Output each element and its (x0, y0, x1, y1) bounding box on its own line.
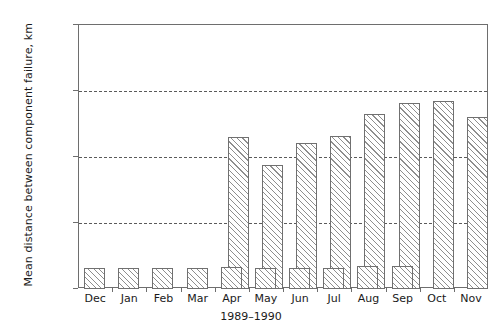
gridline-16000 (79, 157, 487, 158)
bar-short-mar (187, 268, 208, 289)
x-tick-label-nov: Nov (446, 292, 496, 305)
bar-short-apr (221, 267, 242, 289)
bar-short-sep (392, 266, 413, 289)
y-tick-mark-24000 (73, 90, 78, 91)
x-tick-mark-8 (351, 288, 352, 292)
gridline-24000 (79, 91, 487, 92)
x-tick-mark-6 (283, 288, 284, 292)
y-tick-mark-8000 (73, 222, 78, 223)
bar-short-may (255, 268, 276, 289)
bar-short-jul (323, 268, 344, 289)
bar-short-jan (118, 268, 139, 289)
y-tick-mark-32000 (73, 24, 78, 25)
x-tick-mark-1 (112, 288, 113, 292)
bar-short-dec (84, 268, 105, 289)
bar-short-aug (357, 266, 378, 289)
gridline-8000 (79, 223, 487, 224)
bar-tall-oct (433, 101, 454, 289)
chart-figure: Mean distance between component failure,… (0, 0, 502, 336)
x-axis-title: 1989–1990 (0, 310, 502, 323)
x-tick-mark-2 (146, 288, 147, 292)
bar-tall-sep (399, 103, 420, 289)
x-tick-mark-4 (215, 288, 216, 292)
y-axis-title: Mean distance between component failure,… (22, 37, 35, 287)
x-tick-mark-3 (181, 288, 182, 292)
plot-area (78, 24, 488, 288)
x-tick-mark-11 (454, 288, 455, 292)
x-tick-mark-10 (420, 288, 421, 292)
bar-tall-nov (467, 117, 488, 289)
x-tick-mark-7 (317, 288, 318, 292)
y-tick-mark-16000 (73, 156, 78, 157)
bar-short-jun (289, 268, 310, 289)
bar-tall-aug (364, 114, 385, 289)
x-tick-mark-5 (249, 288, 250, 292)
bar-short-feb (152, 268, 173, 289)
bar-tall-jul (330, 136, 351, 289)
y-tick-mark-0 (73, 288, 78, 289)
x-tick-mark-9 (386, 288, 387, 292)
